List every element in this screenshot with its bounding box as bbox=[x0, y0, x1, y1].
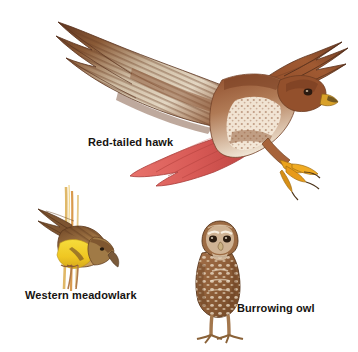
burrowing-owl-illustration bbox=[178, 215, 262, 345]
western-meadowlark-illustration bbox=[28, 185, 114, 295]
burrowing-owl-label: Burrowing owl bbox=[237, 303, 315, 314]
hawk-head bbox=[278, 76, 338, 112]
owl-right-eye bbox=[223, 236, 231, 243]
hawk-talons bbox=[262, 138, 320, 200]
hawk-eye bbox=[304, 89, 313, 96]
hawk-left-wing bbox=[56, 22, 224, 134]
owl-left-eye bbox=[209, 236, 217, 243]
meadowlark-eye bbox=[100, 247, 104, 251]
red-tailed-hawk-label: Red-tailed hawk bbox=[88, 137, 173, 148]
owl-legs bbox=[197, 315, 243, 343]
illustration-plate: Red-tailed hawk Western meadowlark Burro… bbox=[0, 0, 358, 352]
red-tailed-hawk-illustration bbox=[36, 14, 352, 204]
western-meadowlark-label: Western meadowlark bbox=[25, 290, 137, 301]
meadowlark-head bbox=[88, 237, 119, 267]
